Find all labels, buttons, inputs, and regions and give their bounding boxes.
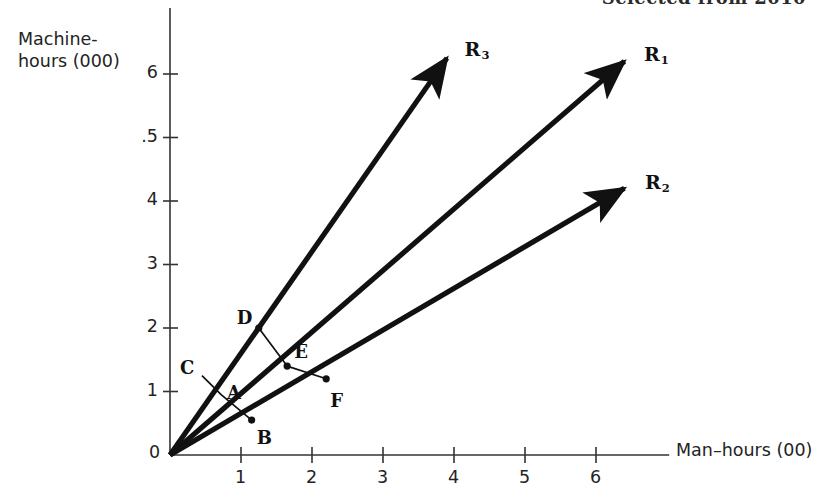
y-tick-label: 4 [124, 189, 158, 209]
ray-label-R3: R3 [465, 38, 489, 60]
y-tick-label: 3 [124, 253, 158, 273]
ray-label-subscript: 1 [661, 53, 669, 67]
point-label-A: A [227, 382, 241, 403]
x-tick-label: 3 [377, 467, 388, 487]
point-label-F: F [330, 390, 343, 411]
ray-label-letter: R [644, 43, 660, 65]
ray-label-R2: R2 [645, 171, 669, 193]
x-axis-label: Man–hours (00) [676, 439, 812, 461]
y-tick-label: .5 [124, 126, 158, 146]
point-marker-F [323, 375, 330, 382]
x-tick-label: 1 [235, 467, 246, 487]
point-marker-B [248, 416, 255, 423]
y-tick-label: 6 [124, 62, 158, 82]
ray-label-subscript: 2 [662, 181, 670, 195]
x-tick-label: 4 [448, 467, 459, 487]
point-label-B: B [257, 427, 272, 448]
x-tick-label: 6 [590, 467, 601, 487]
point-label-C: C [180, 357, 194, 378]
ray-label-subscript: 3 [481, 48, 489, 62]
x-tick-label: 2 [306, 467, 317, 487]
point-label-D: D [237, 307, 253, 328]
y-axis-label: Machine- hours (000) [18, 28, 120, 73]
point-label-E: E [294, 341, 308, 362]
point-marker-E [284, 363, 291, 370]
point-marker-D [255, 324, 262, 331]
x-tick-label: 5 [519, 467, 530, 487]
figure-root: Selected from 2010 Machine- hours (000) … [0, 0, 824, 503]
origin-label: 0 [149, 442, 160, 462]
ray-label-letter: R [465, 38, 481, 60]
y-axis-label-line2: hours (000) [18, 50, 120, 72]
ray-R3 [170, 58, 447, 455]
ray-label-letter: R [645, 171, 661, 193]
ray-label-R1: R1 [644, 43, 668, 65]
y-tick-label: 1 [124, 380, 158, 400]
y-axis-label-line1: Machine- [18, 28, 120, 50]
y-tick-label: 2 [124, 316, 158, 336]
